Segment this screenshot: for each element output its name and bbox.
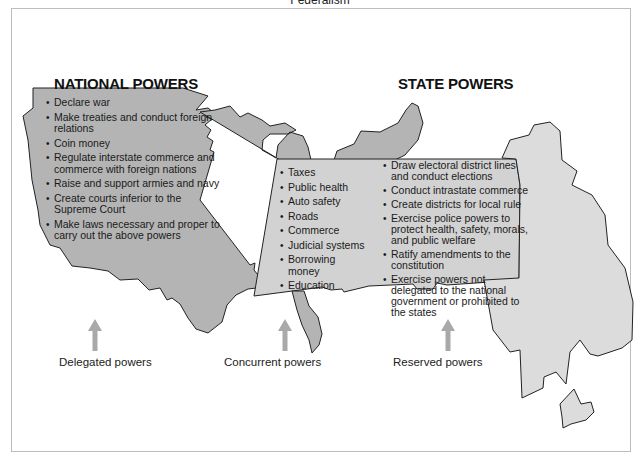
list-item: Commerce	[280, 225, 370, 237]
island-region	[560, 389, 594, 428]
list-item: Regulate interstate commerce and commerc…	[46, 152, 221, 175]
national-powers-heading: NATIONAL POWERS	[54, 75, 198, 92]
florida-region	[292, 291, 322, 353]
state-powers-list: Draw electoral district lines and conduc…	[383, 160, 533, 321]
list-item: Exercise police powers to protect health…	[383, 213, 533, 246]
list-item: Coin money	[46, 138, 221, 150]
concurrent-powers-label: Concurrent powers	[224, 356, 321, 368]
list-item: Taxes	[280, 167, 370, 179]
state-powers-heading: STATE POWERS	[398, 75, 513, 92]
list-item: Education	[280, 280, 370, 292]
concurrent-powers-list: Taxes Public health Auto safety Roads Co…	[280, 167, 370, 295]
list-item: Borrowing money	[280, 254, 343, 277]
list-item: Declare war	[46, 97, 221, 109]
arrow-up-icon	[441, 319, 455, 351]
list-item: Draw electoral district lines and conduc…	[383, 160, 533, 182]
delegated-powers-label: Delegated powers	[59, 356, 152, 368]
arrow-up-icon	[88, 319, 102, 351]
list-item: Auto safety	[280, 196, 370, 208]
list-item: Conduct intrastate commerce	[383, 185, 533, 196]
list-item: Create districts for local rule	[383, 199, 533, 210]
list-item: Exercise powers not delegated to the nat…	[383, 274, 533, 318]
list-item: Judicial systems	[280, 240, 370, 252]
list-item: Ratify amendments to the constitution	[383, 249, 533, 271]
list-item: Public health	[280, 182, 370, 194]
list-item: Make laws necessary and proper to carry …	[46, 219, 221, 242]
reserved-powers-label: Reserved powers	[393, 356, 482, 368]
new-england-region	[334, 103, 423, 160]
list-item: Make treaties and conduct foreign relati…	[46, 112, 221, 135]
arrow-up-icon	[278, 319, 292, 351]
list-item: Roads	[280, 211, 370, 223]
list-item: Raise and support armies and navy	[46, 178, 221, 190]
list-item: Create courts inferior to the Supreme Co…	[46, 193, 221, 216]
national-powers-list: Declare war Make treaties and conduct fo…	[46, 97, 221, 245]
